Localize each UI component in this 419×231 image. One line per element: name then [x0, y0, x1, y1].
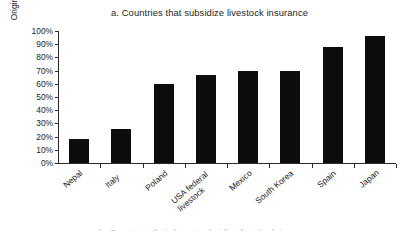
y-axis-tick-label: 20% — [36, 132, 53, 142]
x-axis-category-label: Italy — [103, 172, 121, 190]
y-axis-tick-label: 40% — [36, 105, 53, 115]
x-axis-category-label: Mexico — [227, 168, 254, 193]
y-axis-tick — [55, 137, 58, 138]
bar — [111, 129, 131, 163]
x-axis-category-label: Spain — [315, 169, 338, 190]
x-axis-category-label: Nepal — [61, 168, 84, 190]
y-axis-line — [58, 31, 59, 164]
x-axis-tick — [396, 164, 397, 168]
x-axis-tick — [185, 164, 186, 168]
y-axis-tick-label: 30% — [36, 118, 53, 128]
x-axis-tick — [143, 164, 144, 168]
x-axis-tick — [269, 164, 270, 168]
y-axis-tick — [55, 123, 58, 124]
x-axis-category-label-line: Poland — [143, 168, 169, 192]
chart-title: a. Countries that subsidize livestock in… — [0, 7, 419, 18]
y-axis-tick — [55, 71, 58, 72]
x-axis-category-label-line: Mexico — [227, 168, 254, 193]
y-axis-tick — [55, 110, 58, 111]
y-axis-tick-label: 0% — [41, 158, 53, 168]
x-axis-tick — [354, 164, 355, 168]
chart-figure: a. Countries that subsidize livestock in… — [0, 0, 419, 231]
y-axis-tick-label: 80% — [36, 52, 53, 62]
x-axis-category-label: Japan — [357, 168, 381, 190]
y-axis-tick-label: 60% — [36, 79, 53, 89]
bar — [323, 47, 343, 163]
x-axis-category-label-line: Nepal — [61, 168, 84, 190]
x-axis-category-label: South Korea — [253, 168, 295, 206]
x-axis-category-label-line: Spain — [315, 169, 338, 190]
x-axis-category-label: USA federallivestock — [169, 170, 216, 214]
bar — [280, 71, 300, 163]
bar — [196, 75, 216, 163]
y-axis-tick — [55, 57, 58, 58]
x-axis-category-label-line: South Korea — [253, 168, 295, 206]
bar — [154, 84, 174, 163]
x-axis-category-label: Poland — [143, 168, 169, 192]
y-axis-tick-label: 10% — [36, 145, 53, 155]
y-axis-tick — [55, 84, 58, 85]
y-axis-tick — [55, 44, 58, 45]
bar — [69, 139, 89, 163]
y-axis-tick-label: 100% — [32, 26, 53, 36]
x-axis-category-label-line: Japan — [357, 168, 381, 190]
plot-area: 0%10%20%30%40%50%60%70%80%90%100% — [58, 31, 396, 163]
y-axis-tick-label: 90% — [36, 39, 53, 49]
y-axis-tick — [55, 31, 58, 32]
next-panel-partial-title: b. Countries that do not subsidize lives… — [0, 227, 419, 231]
x-axis-category-label-line: Italy — [103, 172, 121, 190]
y-axis-title-label: Original gross premium — [8, 0, 20, 42]
y-axis-tick — [55, 150, 58, 151]
bar — [365, 36, 385, 163]
bar — [238, 71, 258, 163]
x-axis-tick — [227, 164, 228, 168]
y-axis-tick — [55, 97, 58, 98]
x-axis-tick — [312, 164, 313, 168]
y-axis-tick-label: 50% — [36, 92, 53, 102]
y-axis-tick — [55, 163, 58, 164]
y-axis-title: Original gross premium — [8, 0, 20, 42]
x-axis-tick — [100, 164, 101, 168]
y-axis-tick-label: 70% — [36, 66, 53, 76]
